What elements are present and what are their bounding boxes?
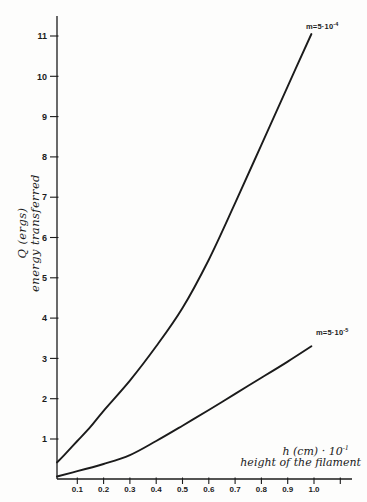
x-axis-title-line2: height of the filament <box>240 457 361 468</box>
x-axis-exponent: -1 <box>343 444 349 452</box>
y-tick-label: 11 <box>37 31 47 41</box>
x-tick-label: 0.4 <box>151 485 163 494</box>
x-tick-label: 0.9 <box>282 485 294 494</box>
x-tick-label: 0.5 <box>177 485 189 494</box>
curve-label-lower: m=5·10-5 <box>316 328 349 337</box>
curve-label-upper: m=5·10-4 <box>306 22 339 31</box>
y-tick-label: 3 <box>42 354 47 364</box>
y-tick-label: 2 <box>42 394 47 404</box>
x-tick-label: 0.3 <box>124 485 136 494</box>
x-tick-label: 0.2 <box>98 485 110 494</box>
plot-area: 12345678910110.10.20.30.40.50.60.70.80.9… <box>0 0 367 502</box>
x-axis-title: h (cm) · 10-1 height of the filament <box>240 446 361 468</box>
y-axis-title-line2: energy transferred <box>29 153 42 313</box>
y-tick-label: 4 <box>42 313 47 323</box>
curve-label-upper-exponent: -4 <box>333 21 338 27</box>
curve-label-lower-exponent: -5 <box>343 327 348 333</box>
y-axis-title: Q (ergs) energy transferred <box>16 153 46 313</box>
figure: 12345678910110.10.20.30.40.50.60.70.80.9… <box>0 0 367 502</box>
x-tick-label: 0.1 <box>72 485 84 494</box>
x-tick-label: 0.7 <box>230 485 242 494</box>
curve-m-5e-4 <box>57 34 311 462</box>
x-tick-label: 0.8 <box>256 485 268 494</box>
x-tick-label: 1.0 <box>308 485 320 494</box>
y-tick-label: 10 <box>37 72 47 82</box>
x-tick-label: 0.6 <box>203 485 215 494</box>
y-tick-label: 1 <box>42 434 47 444</box>
y-tick-label: 9 <box>42 112 47 122</box>
